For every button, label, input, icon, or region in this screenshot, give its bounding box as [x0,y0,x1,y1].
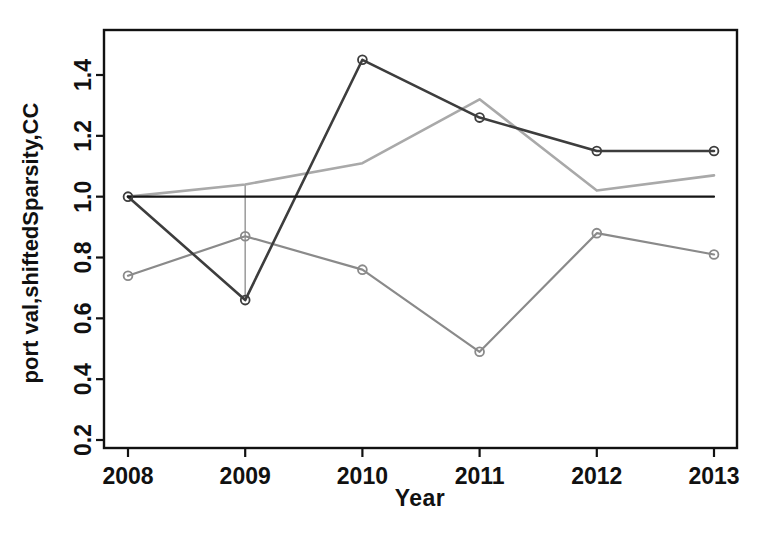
y-tick-label: 0.4 [70,363,96,395]
y-tick-label: 1.0 [70,181,96,213]
x-tick-label: 2011 [455,463,505,489]
chart-svg: 0.20.40.60.81.01.21.42008200920102011201… [0,0,772,535]
x-tick-label: 2012 [571,463,622,489]
y-tick-label: 1.4 [70,59,96,91]
y-tick-label: 0.8 [70,241,96,273]
x-tick-label: 2008 [102,463,153,489]
series-line-shifted-sparsity-light-gray-line [128,99,714,196]
x-tick-label: 2013 [688,463,739,489]
y-tick-label: 0.6 [70,302,96,334]
x-axis-label: Year [395,485,446,512]
plot-border [104,30,737,448]
series-line-gray-marker-line [128,233,714,352]
figure: 0.20.40.60.81.01.21.42008200920102011201… [0,0,772,535]
y-axis-label: port val,shiftedSparsity,CC [18,103,44,384]
y-tick-label: 1.2 [70,120,96,152]
series-line-port-val-dark-line [128,60,714,300]
x-tick-label: 2010 [337,463,388,489]
x-tick-label: 2009 [220,463,271,489]
y-tick-label: 0.2 [70,424,96,456]
